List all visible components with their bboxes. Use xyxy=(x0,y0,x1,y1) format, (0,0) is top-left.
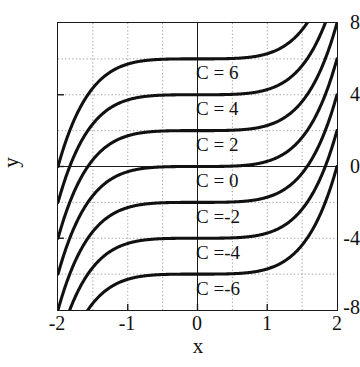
curve-label-cneg6: C =-6 xyxy=(196,279,240,298)
y-axis-label: y xyxy=(1,157,22,168)
x-axis-label: x xyxy=(0,336,360,357)
curve-label-c0: C = 0 xyxy=(196,171,238,190)
curve-label-c2: C = 2 xyxy=(196,135,238,154)
x-tick-label-2: 2 xyxy=(317,313,357,333)
x-tick-label-neg2: -2 xyxy=(37,313,77,333)
x-tick-label-0: 0 xyxy=(177,313,217,333)
chart-figure: y 8 4 0 -4 -8 -2 -1 0 1 2 x C = 6 C = 4 … xyxy=(0,0,360,367)
x-tick-label-neg1: -1 xyxy=(107,313,147,333)
x-tick-label-1: 1 xyxy=(247,313,287,333)
curve-label-cneg2: C =-2 xyxy=(196,207,240,226)
curve-label-c4: C = 4 xyxy=(196,99,238,118)
curve-label-cneg4: C =-4 xyxy=(196,243,240,262)
curve-label-c6: C = 6 xyxy=(196,63,238,82)
